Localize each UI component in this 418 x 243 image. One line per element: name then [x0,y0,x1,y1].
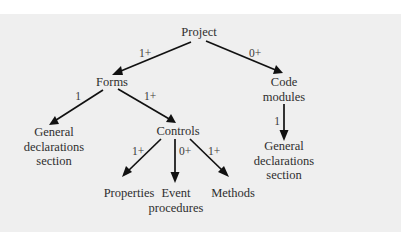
edge-label-project-forms: 1+ [139,47,151,59]
arrow-project-to-code-modules [206,41,283,74]
node-module-general-declarations-line1: General [254,139,314,154]
node-properties-label: Properties [104,186,155,201]
edge-label-controls-methods: 1+ [208,145,220,157]
node-forms-general-declarations: General declarations section [24,125,84,169]
node-code-modules-line1: Code [263,75,305,90]
node-forms-general-declarations-line1: General [24,125,84,140]
node-forms-general-declarations-line3: section [24,154,84,169]
node-module-general-declarations: General declarations section [254,139,314,183]
arrow-code-modules-to-general-declarations [280,104,289,141]
node-methods: Methods [211,186,255,201]
node-code-modules-line2: modules [263,90,305,105]
arrow-project-to-forms [112,42,191,75]
node-controls-label: Controls [156,124,199,139]
node-project: Project [181,25,216,40]
edge-label-code-modules-general-declarations: 1 [274,115,280,127]
node-event-procedures-line1: Event [149,186,204,201]
edge-label-controls-properties: 1+ [132,145,144,157]
node-event-procedures-line2: procedures [149,201,204,216]
edge-label-project-code-modules: 0+ [249,47,261,59]
node-module-general-declarations-line3: section [254,168,314,183]
edge-label-forms-controls: 1+ [144,90,156,102]
node-module-general-declarations-line2: declarations [254,154,314,169]
node-forms-general-declarations-line2: declarations [24,140,84,155]
node-project-label: Project [181,25,216,40]
node-methods-label: Methods [211,186,255,201]
edge-label-forms-general-declarations: 1 [75,90,81,102]
node-event-procedures: Event procedures [149,186,204,215]
node-properties: Properties [104,186,155,201]
node-forms-label: Forms [96,75,128,90]
node-code-modules: Code modules [263,75,305,104]
edge-label-controls-event-procedures: 0+ [179,145,191,157]
node-controls: Controls [156,124,199,139]
node-forms: Forms [96,75,128,90]
